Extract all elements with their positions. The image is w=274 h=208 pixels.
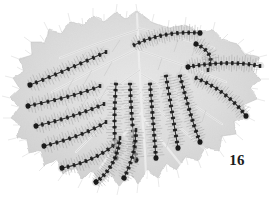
caterpillar-segment: [130, 124, 134, 127]
caterpillar-segment: [152, 139, 156, 142]
caterpillar-segment: [112, 126, 116, 129]
caterpillar-segment: [113, 107, 117, 110]
caterpillar-segment: [153, 151, 157, 154]
caterpillar-segment: [105, 50, 108, 54]
caterpillar-segment: [129, 106, 133, 109]
caterpillar-segment: [150, 105, 154, 108]
caterpillar-head: [154, 155, 159, 160]
caterpillar-segment: [152, 128, 156, 131]
caterpillar-head: [244, 113, 249, 118]
caterpillar-segment: [105, 120, 108, 124]
caterpillar-segment: [114, 83, 118, 86]
caterpillar-segment: [112, 114, 116, 117]
caterpillar-segment: [150, 111, 154, 114]
caterpillar-segment: [193, 31, 196, 35]
caterpillar-segment: [135, 128, 138, 132]
caterpillar-segment: [112, 120, 116, 123]
caterpillar-segment: [128, 83, 132, 86]
caterpillar-head: [198, 139, 203, 144]
leaf-with-caterpillars-illustration: [0, 0, 274, 208]
caterpillar-segment: [128, 88, 132, 91]
figure-plate: 16: [0, 0, 274, 208]
caterpillar-segment: [103, 102, 106, 106]
caterpillar-segment: [133, 140, 137, 143]
caterpillar-segment: [225, 61, 228, 65]
caterpillar-segment: [182, 31, 185, 35]
caterpillar-segment: [203, 62, 206, 66]
caterpillar-segment: [148, 83, 152, 86]
caterpillar-segment: [176, 31, 179, 35]
figure-number-label: 16: [226, 152, 248, 168]
caterpillar-head: [176, 145, 181, 150]
caterpillar-segment: [153, 145, 157, 148]
caterpillar-segment: [130, 118, 134, 121]
caterpillar-segment: [113, 89, 117, 92]
caterpillar-segment: [113, 132, 117, 135]
caterpillar-segment: [151, 122, 155, 125]
caterpillar-segment: [220, 61, 223, 65]
caterpillar-segment: [129, 112, 133, 115]
caterpillar-segment: [236, 61, 239, 65]
caterpillar-segment: [247, 62, 250, 66]
caterpillar-segment: [259, 64, 262, 68]
caterpillar-head: [198, 30, 203, 35]
caterpillar-segment: [148, 88, 152, 91]
caterpillar-segment: [187, 30, 190, 34]
caterpillar-segment: [152, 134, 156, 137]
caterpillar-segment: [242, 62, 245, 66]
caterpillar-segment: [149, 94, 153, 97]
caterpillar-segment: [113, 95, 117, 98]
caterpillar-segment: [113, 101, 117, 104]
caterpillar-segment: [119, 136, 122, 140]
caterpillar-segment: [128, 94, 132, 97]
caterpillar-segment: [149, 100, 153, 103]
caterpillar-segment: [134, 134, 138, 137]
caterpillar-segment: [214, 61, 217, 65]
caterpillar-segment: [151, 117, 155, 120]
caterpillar-segment: [99, 84, 102, 88]
caterpillar-segment: [170, 31, 173, 35]
caterpillar-segment: [231, 61, 234, 65]
caterpillar-segment: [209, 62, 212, 66]
caterpillar-segment: [129, 100, 133, 103]
